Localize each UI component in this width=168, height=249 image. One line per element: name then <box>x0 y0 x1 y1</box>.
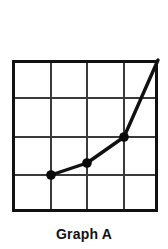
data-point-marker <box>46 170 56 180</box>
graph-caption: Graph A <box>0 226 168 242</box>
data-point-marker <box>119 132 129 142</box>
graph-plot <box>0 0 168 249</box>
graph-figure: Graph A <box>0 0 168 249</box>
data-point-marker <box>82 158 92 168</box>
